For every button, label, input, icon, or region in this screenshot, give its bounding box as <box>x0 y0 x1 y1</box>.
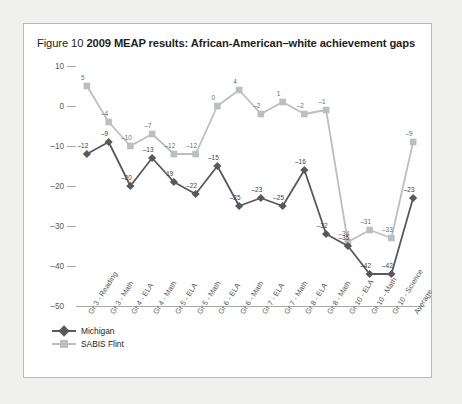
data-point <box>410 139 417 146</box>
data-point <box>409 194 417 202</box>
data-point-label: –4 <box>101 110 108 117</box>
data-point-label: –31 <box>360 218 371 225</box>
data-point-label: –2 <box>297 102 304 109</box>
data-point-label: –23 <box>252 186 263 193</box>
figure-title: Figure 10 2009 MEAP results: African-Ame… <box>37 37 415 49</box>
data-point <box>105 138 113 146</box>
legend-item-michigan[interactable]: Michigan <box>52 324 124 337</box>
data-point-label: –23 <box>404 186 415 193</box>
figure-number: Figure 10 <box>37 37 83 49</box>
data-point <box>366 227 373 234</box>
data-point <box>388 235 395 242</box>
data-point-label: –25 <box>273 194 284 201</box>
data-point-label: –7 <box>145 122 152 129</box>
data-point <box>323 107 330 114</box>
data-point <box>279 99 286 106</box>
legend-label: Michigan <box>81 326 115 336</box>
diamond-marker-icon <box>52 326 76 336</box>
data-point <box>301 111 308 118</box>
data-point-label: –42 <box>360 262 371 269</box>
data-point-label: –15 <box>208 154 219 161</box>
data-point <box>84 83 91 90</box>
data-point <box>235 202 243 210</box>
data-point-label: –32 <box>317 222 328 229</box>
data-point-label: –25 <box>230 194 241 201</box>
data-point <box>171 151 178 158</box>
data-point <box>127 143 134 150</box>
data-point-label: –42 <box>382 262 393 269</box>
data-point-label: –9 <box>101 130 108 137</box>
legend-label: SABIS Flint <box>81 339 124 349</box>
data-point <box>236 87 243 94</box>
data-point-label: 4 <box>233 78 237 85</box>
data-point-label: –12 <box>78 142 89 149</box>
data-point-label: 5 <box>81 74 85 81</box>
data-point-label: –22 <box>186 182 197 189</box>
data-point <box>214 103 221 110</box>
data-point-label: –20 <box>121 174 132 181</box>
data-point <box>83 150 91 158</box>
data-point-label: –10 <box>121 134 132 141</box>
data-point <box>149 131 156 138</box>
data-point <box>387 270 395 278</box>
data-point-label: –13 <box>143 146 154 153</box>
data-point <box>300 166 308 174</box>
data-point-label: –12 <box>165 142 176 149</box>
data-point <box>257 194 265 202</box>
data-point-label: –9 <box>406 130 413 137</box>
data-point <box>192 151 199 158</box>
series-line-michigan <box>87 142 413 274</box>
data-point-label: 19 <box>166 170 173 177</box>
data-point <box>258 111 265 118</box>
data-point <box>105 119 112 126</box>
data-point-label: 0 <box>212 94 216 101</box>
data-point-label: –34 <box>339 230 350 237</box>
square-marker-icon <box>52 339 76 349</box>
chart-legend: MichiganSABIS Flint <box>52 324 124 350</box>
figure-title-text: 2009 MEAP results: African-American–whit… <box>86 37 415 49</box>
figure-panel: Figure 10 2009 MEAP results: African-Ame… <box>23 23 432 378</box>
data-point-label: 1 <box>277 90 281 97</box>
data-point <box>322 230 330 238</box>
data-point-label: –33 <box>382 226 393 233</box>
legend-item-sabis-flint[interactable]: SABIS Flint <box>52 337 124 350</box>
data-point-label: –16 <box>295 158 306 165</box>
data-point <box>279 202 287 210</box>
data-point-label: –2 <box>253 102 260 109</box>
data-point-label: –12 <box>186 142 197 149</box>
data-point-label: –1 <box>319 98 326 105</box>
